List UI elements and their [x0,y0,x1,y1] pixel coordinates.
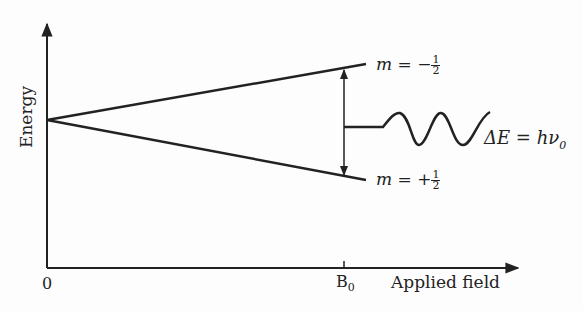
origin-label: 0 [42,274,52,293]
upper-level-label: m = −12 [376,54,440,76]
y-axis-label: Energy [16,86,36,148]
lower-level-label: m = +12 [376,169,440,191]
b0-label: B0 [336,272,355,294]
diagram-lines [0,0,583,311]
photon-wave [344,112,490,145]
zeeman-diagram: Energy 0 B0 Applied field m = −12 m = +1… [0,0,583,311]
transition-energy-label: ΔE = hν0 [484,127,566,152]
upper-level-line [47,64,366,120]
x-axis-label: Applied field [391,272,500,292]
lower-level-line [47,120,366,180]
